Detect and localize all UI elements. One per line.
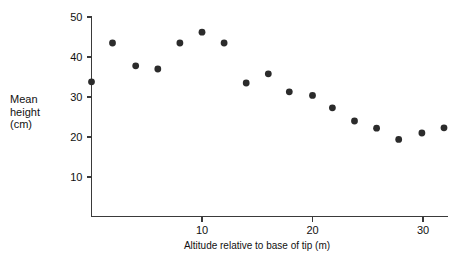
data-point (351, 118, 358, 125)
y-axis-title: Meanheight(cm) (10, 93, 40, 131)
data-point (221, 40, 228, 47)
y-tick-label-20: 20 (70, 131, 82, 143)
data-point (329, 104, 336, 111)
x-axis-title: Altitude relative to base of tip (m) (0, 240, 458, 251)
plot-area: 1020304050102030 (0, 0, 458, 271)
data-point (265, 70, 272, 77)
scatter-chart-figure: Meanheight(cm) Altitude relative to base… (0, 0, 458, 271)
data-point (395, 136, 402, 143)
tick-marks (87, 17, 424, 222)
data-point (243, 80, 250, 87)
data-point (309, 92, 316, 99)
y-tick-label-40: 40 (70, 51, 82, 63)
data-point (418, 130, 425, 137)
data-point (154, 66, 161, 73)
x-tick-label-20: 20 (306, 224, 318, 236)
data-point (199, 29, 206, 36)
data-point (109, 40, 116, 47)
data-point (441, 124, 448, 131)
y-axis-title-line-2: height (10, 106, 40, 118)
tick-labels: 1020304050102030 (70, 11, 429, 236)
y-tick-label-30: 30 (70, 91, 82, 103)
data-point (373, 125, 380, 132)
axis-lines (92, 16, 449, 217)
data-points (88, 29, 447, 143)
data-point (88, 78, 95, 85)
data-point (177, 40, 184, 47)
y-axis-title-line-3: (cm) (10, 118, 32, 130)
x-tick-label-10: 10 (196, 224, 208, 236)
data-point (286, 88, 293, 95)
y-tick-label-10: 10 (70, 171, 82, 183)
x-axis-title-text: Altitude relative to base of tip (m) (184, 240, 330, 251)
data-point (132, 62, 139, 69)
y-axis-title-line-1: Mean (10, 93, 38, 105)
y-tick-label-50: 50 (70, 11, 82, 23)
x-tick-label-30: 30 (417, 224, 429, 236)
